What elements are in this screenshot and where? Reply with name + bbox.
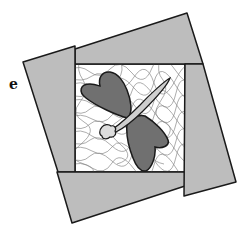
frame-strip-top: [75, 13, 203, 64]
frame-strip-right: [184, 64, 236, 196]
panel-label: e: [9, 77, 18, 91]
dragonfly-head: [100, 125, 116, 139]
quilt-block-illustration: [0, 0, 246, 233]
quilt-block-figure: [0, 0, 246, 233]
frame-strip-left: [23, 46, 75, 172]
frame-strip-bottom: [57, 172, 185, 223]
